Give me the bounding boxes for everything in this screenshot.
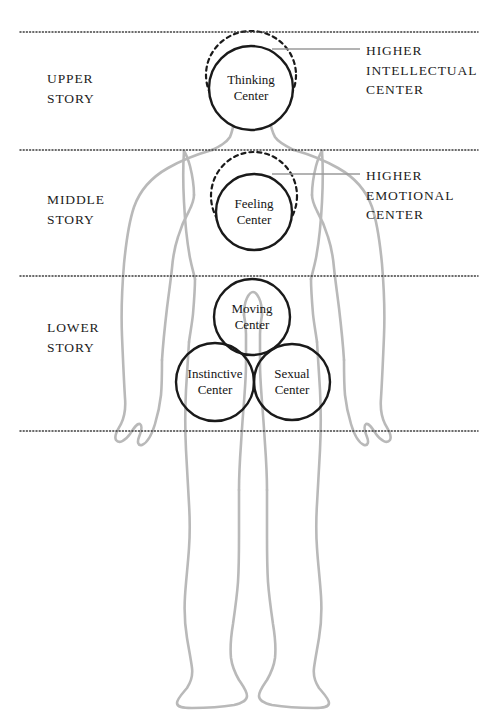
higher-emotional-center-label: HIGHER EMOTIONAL CENTER xyxy=(366,166,454,225)
left-leg-outer-outline xyxy=(177,342,247,708)
centers-diagram: UPPER STORY MIDDLE STORY LOWER STORY HIG… xyxy=(0,0,498,723)
left-inner-thigh-notch xyxy=(189,279,195,342)
story-label-lower: LOWER STORY xyxy=(47,318,100,357)
right-inner-thigh-notch xyxy=(311,279,317,342)
dashed-occluders xyxy=(209,46,293,250)
diagram-canvas xyxy=(0,0,498,723)
crotch-center-outline xyxy=(244,292,262,315)
left-leg-inner-outline xyxy=(239,315,246,490)
right-leg-outer-outline xyxy=(259,342,329,708)
right-pelvis-outline xyxy=(311,151,323,279)
left-pelvis-outline xyxy=(183,151,195,279)
higher-intellectual-center-label: HIGHER INTELLECTUAL CENTER xyxy=(366,41,477,100)
story-label-middle: MIDDLE STORY xyxy=(47,190,105,229)
story-label-upper: UPPER STORY xyxy=(47,69,95,108)
left-arm-outline xyxy=(115,150,212,445)
